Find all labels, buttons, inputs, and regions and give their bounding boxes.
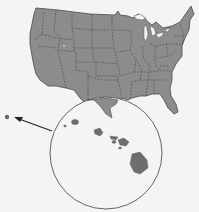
pointer-arrow: [14, 117, 52, 131]
island-kauai: [72, 119, 79, 124]
location-marker: [63, 45, 65, 47]
island-lanai: [112, 141, 116, 144]
hawaii-location-dot: [5, 115, 9, 119]
island-kahoolawe: [119, 147, 122, 149]
island-niihau: [64, 125, 67, 127]
map-figure: [0, 0, 199, 212]
